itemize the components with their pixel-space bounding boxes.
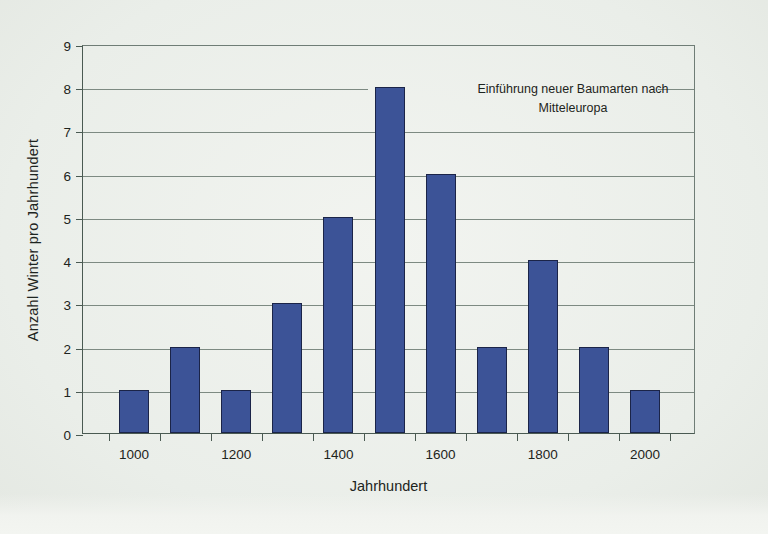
x-axis-tick: [568, 433, 569, 441]
y-axis-tick-label: 8: [63, 82, 71, 97]
y-axis-tick: [76, 262, 83, 263]
x-axis-tick: [109, 433, 110, 441]
y-axis-tick-label: 3: [63, 298, 71, 313]
bar-1100: [170, 347, 200, 433]
x-axis-tick: [211, 433, 212, 441]
bar-1200: [221, 390, 251, 433]
annotation-line-2: Mitteleuropa: [448, 99, 698, 118]
x-axis-tick-label: 1200: [221, 447, 251, 462]
x-axis-tick-label: 1400: [323, 447, 353, 462]
y-axis-tick-label: 9: [63, 39, 71, 54]
bar-1600: [426, 174, 456, 433]
x-axis-tick: [619, 433, 620, 441]
y-axis-tick-label: 5: [63, 211, 71, 226]
y-axis-tick: [76, 89, 83, 90]
bar-1500: [375, 87, 405, 433]
y-axis-tick: [76, 435, 83, 436]
x-axis-title: Jahrhundert: [82, 478, 695, 494]
x-axis-tick: [262, 433, 263, 441]
x-axis-tick-label: 1600: [426, 447, 456, 462]
x-axis-tick: [415, 433, 416, 441]
y-axis-title-label: Anzahl Winter pro Jahrhundert: [25, 138, 41, 340]
y-axis-tick-label: 4: [63, 255, 71, 270]
bar-1400: [323, 217, 353, 433]
bar-1000: [119, 390, 149, 433]
y-axis-tick-label: 7: [63, 125, 71, 140]
y-axis-title: Anzahl Winter pro Jahrhundert: [22, 45, 44, 434]
y-axis-tick-label: 6: [63, 168, 71, 183]
y-axis-tick-label: 0: [63, 428, 71, 443]
y-axis-tick: [76, 349, 83, 350]
y-axis-tick: [76, 176, 83, 177]
annotation-line-1: Einführung neuer Baumarten nach: [477, 82, 668, 96]
x-axis-tick: [313, 433, 314, 441]
x-axis-tick: [670, 433, 671, 441]
scan-fade: [0, 494, 768, 534]
x-axis-tick-label: 2000: [630, 447, 660, 462]
scanned-page: Anzahl Winter pro Jahrhundert 0123456789…: [0, 0, 768, 534]
y-axis-tick: [76, 46, 83, 47]
bar-1900: [579, 347, 609, 433]
x-axis-tick: [364, 433, 365, 441]
x-axis-tick-label: 1800: [528, 447, 558, 462]
y-axis-tick-label: 2: [63, 341, 71, 356]
y-axis-tick-label: 1: [63, 384, 71, 399]
chart-annotation: Einführung neuer Baumarten nach Mitteleu…: [448, 80, 698, 119]
y-axis-tick: [76, 392, 83, 393]
x-axis-tick: [517, 433, 518, 441]
bar-2000: [630, 390, 660, 433]
bar-1800: [528, 260, 558, 433]
y-axis-tick: [76, 132, 83, 133]
gridline-segment: [83, 89, 368, 90]
bar-1300: [272, 303, 302, 433]
y-axis-tick: [76, 305, 83, 306]
y-axis-tick: [76, 219, 83, 220]
x-axis-tick: [160, 433, 161, 441]
x-axis-tick: [466, 433, 467, 441]
bar-1700: [477, 347, 507, 433]
x-axis-tick-label: 1000: [119, 447, 149, 462]
